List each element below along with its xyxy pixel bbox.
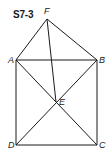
point-label-f: F bbox=[44, 7, 50, 16]
figure-title: S7-3 bbox=[13, 9, 33, 20]
figure-drawing bbox=[0, 0, 111, 161]
point-label-c: C bbox=[99, 141, 106, 150]
point-label-d: D bbox=[8, 141, 15, 150]
point-label-a: A bbox=[8, 56, 14, 65]
point-label-e: E bbox=[59, 98, 65, 107]
segment-fb bbox=[47, 19, 97, 60]
point-label-b: B bbox=[99, 56, 105, 65]
geometry-figure: S7-3 F A B E D C bbox=[0, 0, 111, 161]
segment-fa bbox=[16, 19, 47, 60]
